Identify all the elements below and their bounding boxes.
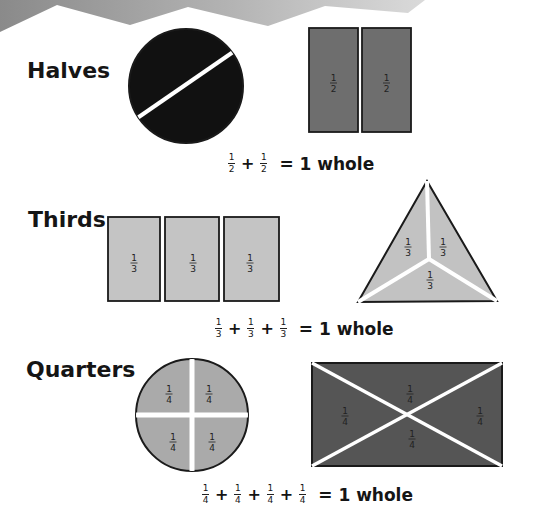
equation-result: = 1 whole bbox=[299, 319, 394, 339]
fraction: 14 bbox=[299, 484, 306, 505]
svg-text:4: 4 bbox=[170, 443, 176, 453]
svg-text:4: 4 bbox=[409, 440, 415, 450]
equation-result: = 1 whole bbox=[318, 485, 413, 505]
equation-halves: 12 + 12 = 1 whole bbox=[228, 153, 374, 174]
fraction: 13 bbox=[280, 318, 287, 339]
svg-text:1: 1 bbox=[190, 253, 196, 263]
svg-text:1: 1 bbox=[407, 384, 413, 394]
svg-text:1: 1 bbox=[384, 73, 390, 83]
svg-text:1: 1 bbox=[427, 270, 433, 280]
svg-text:4: 4 bbox=[342, 417, 348, 427]
svg-text:2: 2 bbox=[384, 84, 390, 94]
svg-text:3: 3 bbox=[131, 264, 137, 274]
equation-quarters: 14 + 14 + 14 + 14 = 1 whole bbox=[202, 484, 413, 505]
svg-text:1: 1 bbox=[247, 253, 253, 263]
fraction: 14 bbox=[267, 484, 274, 505]
halves-rectangle: 1 2 1 2 bbox=[309, 28, 411, 132]
svg-text:4: 4 bbox=[477, 417, 483, 427]
equation-thirds: 13 + 13 + 13 = 1 whole bbox=[215, 318, 394, 339]
svg-text:1: 1 bbox=[409, 429, 415, 439]
halves-circle bbox=[129, 29, 243, 143]
svg-text:4: 4 bbox=[209, 443, 215, 453]
svg-text:1: 1 bbox=[131, 253, 137, 263]
section-label-quarters: Quarters bbox=[26, 357, 135, 382]
svg-text:1: 1 bbox=[405, 237, 411, 247]
fraction: 14 bbox=[234, 484, 241, 505]
svg-text:1: 1 bbox=[342, 406, 348, 416]
svg-text:3: 3 bbox=[440, 248, 446, 258]
svg-text:3: 3 bbox=[405, 248, 411, 258]
fraction: 13 bbox=[215, 318, 222, 339]
svg-text:3: 3 bbox=[247, 264, 253, 274]
svg-text:1: 1 bbox=[170, 432, 176, 442]
svg-text:1: 1 bbox=[206, 384, 212, 394]
svg-text:3: 3 bbox=[190, 264, 196, 274]
fraction: 14 bbox=[202, 484, 209, 505]
thirds-triangle: 1 3 1 3 1 3 bbox=[358, 181, 497, 302]
fraction: 12 bbox=[260, 153, 267, 174]
section-label-thirds: Thirds bbox=[28, 207, 106, 232]
svg-text:3: 3 bbox=[427, 281, 433, 291]
thirds-rectangle: 1 3 1 3 1 3 bbox=[108, 217, 279, 301]
section-label-halves: Halves bbox=[27, 58, 110, 83]
quarters-circle: 1 4 1 4 1 4 1 4 bbox=[132, 355, 252, 475]
equation-result: = 1 whole bbox=[279, 154, 374, 174]
svg-text:1: 1 bbox=[440, 237, 446, 247]
fractions-diagram: 1 2 1 2 1 3 1 3 1 3 1 bbox=[0, 0, 544, 522]
svg-text:4: 4 bbox=[407, 395, 413, 405]
svg-text:4: 4 bbox=[206, 395, 212, 405]
svg-text:2: 2 bbox=[331, 84, 337, 94]
svg-text:1: 1 bbox=[331, 73, 337, 83]
fraction: 12 bbox=[228, 153, 235, 174]
svg-text:4: 4 bbox=[166, 395, 172, 405]
quarters-rectangle: 1 4 1 4 1 4 1 4 bbox=[312, 363, 502, 466]
svg-text:1: 1 bbox=[166, 384, 172, 394]
fraction: 13 bbox=[247, 318, 254, 339]
svg-text:1: 1 bbox=[477, 406, 483, 416]
svg-text:1: 1 bbox=[209, 432, 215, 442]
